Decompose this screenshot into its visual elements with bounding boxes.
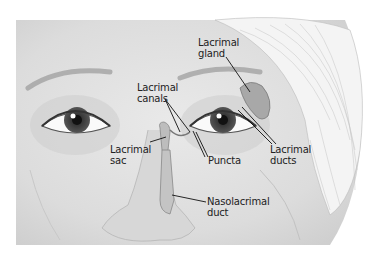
label-lacrimal-sac: Lacrimal sac <box>110 144 151 166</box>
label-lacrimal-ducts: Lacrimal ducts <box>270 144 311 166</box>
label-lacrimal-gland: Lacrimal gland <box>198 37 239 59</box>
label-lacrimal-canals: Lacrimal canals <box>137 82 178 104</box>
label-nasolacrimal-duct: Nasolacrimal duct <box>207 196 269 218</box>
lacrimal-apparatus-illustration: Lacrimal gland Lacrimal canals Lacrimal … <box>0 0 378 268</box>
face-drawing <box>0 0 378 268</box>
label-puncta: Puncta <box>208 155 241 166</box>
